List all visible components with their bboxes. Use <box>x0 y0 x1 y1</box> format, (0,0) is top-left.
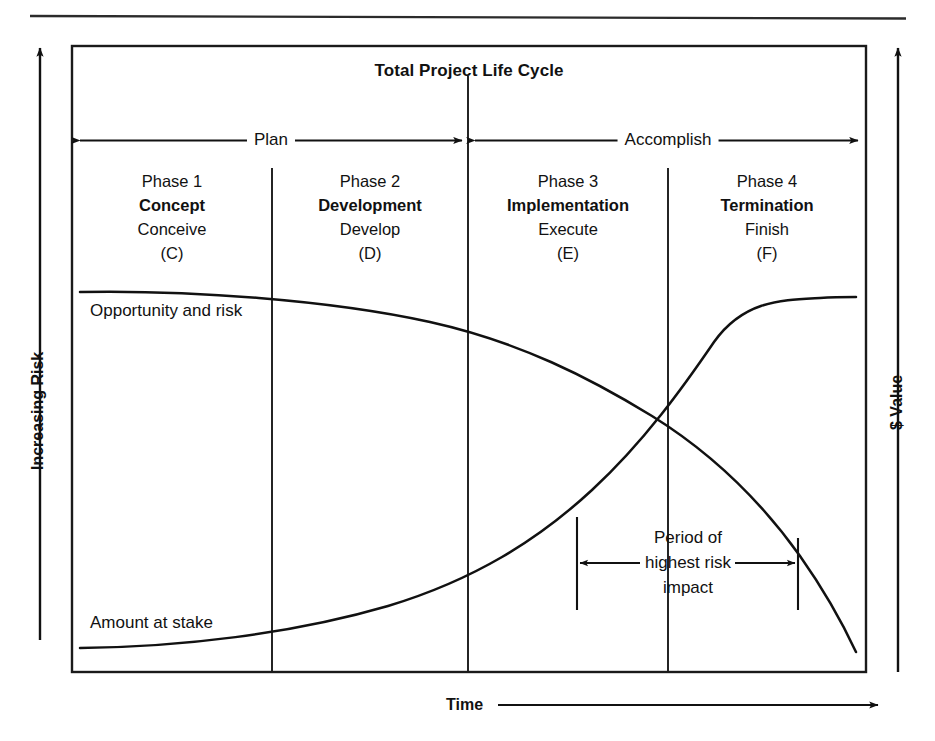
phase-2-name: Development <box>318 196 422 214</box>
curve-label-opportunity-and-risk: Opportunity and risk <box>90 301 242 320</box>
phase-2-verb: Develop <box>340 220 401 238</box>
phase-4-number: Phase 4 <box>737 172 798 190</box>
phase-1-name: Concept <box>139 196 205 214</box>
right-axis-label: $ Value <box>888 375 906 430</box>
figure-title: Total Project Life Cycle <box>374 61 563 80</box>
phase-1-code: (C) <box>161 244 184 262</box>
phase-1-verb: Conceive <box>138 220 207 238</box>
phase-4-name: Termination <box>720 196 813 214</box>
time-axis-label: Time <box>446 696 483 714</box>
phase-1-number: Phase 1 <box>142 172 203 190</box>
phase-3-number: Phase 3 <box>538 172 599 190</box>
phase-3-name: Implementation <box>507 196 629 214</box>
annotation-highest-risk-line2: highest risk <box>645 552 731 574</box>
phase-4-code: (F) <box>756 244 777 262</box>
annotation-highest-risk-line3: impact <box>663 577 713 599</box>
phase-dividers <box>272 76 668 672</box>
band-label-accomplish: Accomplish <box>618 130 719 149</box>
phase-3-verb: Execute <box>538 220 598 238</box>
curve-label-amount-at-stake: Amount at stake <box>90 613 213 632</box>
band-label-plan: Plan <box>247 130 295 149</box>
phase-2-code: (D) <box>359 244 382 262</box>
phase-2-number: Phase 2 <box>340 172 401 190</box>
left-axis-label: Increasing Risk <box>29 352 47 470</box>
phase-3-code: (E) <box>557 244 579 262</box>
project-life-cycle-figure: Total Project Life Cycle Plan Accomplish… <box>0 0 935 741</box>
annotation-highest-risk-line1: Period of <box>654 527 722 549</box>
page-top-rule <box>30 16 906 19</box>
phase-4-verb: Finish <box>745 220 789 238</box>
